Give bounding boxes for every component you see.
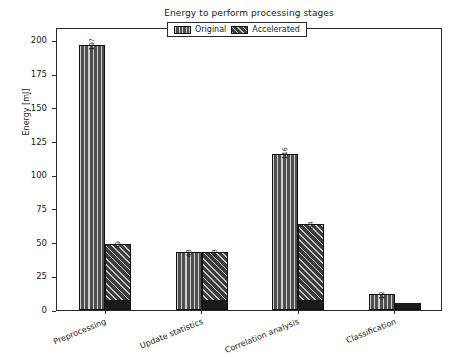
bar-value-label: 116: [282, 147, 289, 159]
y-axis-tick-label: 100: [31, 170, 47, 180]
bar-value-label: 43: [211, 249, 218, 257]
y-axis-tick-label: 0: [42, 305, 47, 315]
plot-area: 19749434311664125: [56, 28, 442, 311]
legend-entry-accelerated: Accelerated: [231, 25, 300, 34]
bar-value-label: 43: [185, 249, 192, 257]
x-axis-tick-mark: [105, 310, 106, 314]
x-axis-tick-mark: [298, 310, 299, 314]
y-axis-tick-label: 200: [31, 35, 47, 45]
bar-value-label: 12: [378, 291, 385, 299]
bar-value-label: 5: [404, 305, 411, 309]
legend-swatch-original-icon: [174, 26, 191, 34]
y-axis-label: Energy [mJ]: [22, 52, 31, 172]
y-axis-tick-label: 125: [31, 137, 47, 147]
bar-value-label: 49: [115, 241, 122, 249]
bar-accelerated[interactable]: [105, 244, 131, 310]
x-axis-tick-mark: [394, 310, 395, 314]
bar-value-label: 197: [89, 38, 96, 50]
bar-accelerated[interactable]: [202, 252, 228, 310]
y-axis-tick-label: 50: [36, 238, 47, 248]
x-axis-tick-mark: [201, 310, 202, 314]
bar-original[interactable]: [272, 154, 298, 310]
bar-original[interactable]: [176, 252, 202, 310]
legend-label-original: Original: [195, 25, 226, 34]
y-axis-tick-label: 75: [36, 204, 47, 214]
y-axis-tick-label: 25: [36, 271, 47, 281]
bar-accelerated[interactable]: [298, 224, 324, 310]
bar-base-segment: [203, 300, 227, 309]
bar-value-label: 64: [308, 221, 315, 229]
y-axis-tick-label: 150: [31, 103, 47, 113]
chart-title: Energy to perform processing stages: [56, 8, 442, 18]
bar-base-segment: [299, 300, 323, 309]
chart-legend: Original Accelerated: [167, 22, 307, 37]
bar-base-segment: [106, 300, 130, 309]
y-axis-tick-label: 175: [31, 69, 47, 79]
legend-swatch-accelerated-icon: [231, 26, 248, 34]
legend-label-accelerated: Accelerated: [252, 25, 300, 34]
legend-entry-original: Original: [174, 25, 226, 34]
bar-original[interactable]: [79, 45, 105, 310]
x-axis-tick-label: Preprocessing: [0, 317, 108, 357]
